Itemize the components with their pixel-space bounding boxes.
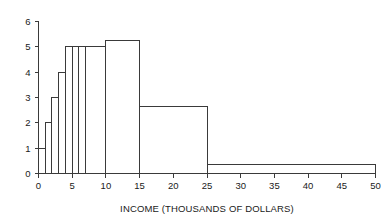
x-tick-label: 20 <box>168 180 179 191</box>
x-axis-title: INCOME (THOUSANDS OF DOLLARS) <box>120 203 294 214</box>
y-tick-label: 5 <box>25 41 30 52</box>
x-tick-label: 50 <box>370 180 381 191</box>
x-tick-label: 25 <box>202 180 213 191</box>
x-tick-label: 40 <box>303 180 314 191</box>
histogram-figure: 012345605101520253035404550INCOME (THOUS… <box>0 0 392 223</box>
x-tick-label: 30 <box>235 180 246 191</box>
y-tick-label: 2 <box>25 117 30 128</box>
x-tick-label: 45 <box>337 180 348 191</box>
x-tick-label: 15 <box>134 180 145 191</box>
histogram-outline <box>39 41 376 174</box>
y-tick-label: 6 <box>25 16 30 27</box>
y-tick-label: 1 <box>25 143 30 154</box>
x-tick-label: 0 <box>36 180 41 191</box>
x-tick-label: 5 <box>70 180 75 191</box>
x-tick-label: 35 <box>269 180 280 191</box>
y-tick-label: 0 <box>25 168 30 179</box>
y-tick-label: 3 <box>25 92 30 103</box>
y-tick-label: 4 <box>25 67 30 78</box>
x-tick-label: 10 <box>101 180 112 191</box>
income-histogram-chart: 012345605101520253035404550INCOME (THOUS… <box>0 0 392 223</box>
